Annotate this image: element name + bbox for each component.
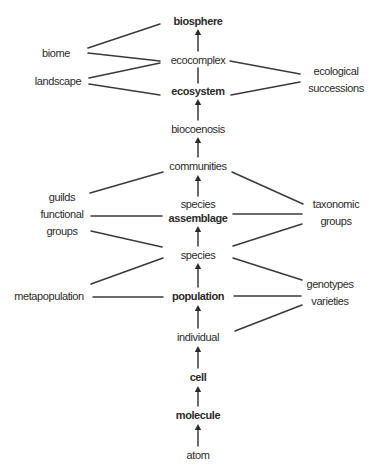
arrow-atom-to-molecule bbox=[195, 424, 201, 446]
link-landscape-ecocomplex bbox=[89, 63, 160, 78]
arrowhead-icon bbox=[195, 386, 201, 392]
arrow-communities-to-biocoenosis bbox=[195, 137, 201, 157]
node-biocoenosis: biocoenosis bbox=[171, 121, 225, 138]
label-line: varieties bbox=[306, 293, 353, 310]
arrow-species-to-assemblage bbox=[195, 226, 201, 246]
link-metapopulation-species bbox=[91, 258, 163, 284]
node-ecosystem: ecosystem bbox=[171, 83, 224, 100]
node-guilds-functional-groups: guilds functional groups bbox=[40, 189, 83, 240]
arrow-population-to-species bbox=[195, 263, 201, 287]
arrowhead-icon bbox=[195, 137, 201, 143]
arrowhead-icon bbox=[195, 226, 201, 232]
arrowhead-icon bbox=[195, 29, 201, 35]
node-species: species bbox=[181, 247, 216, 264]
arrowhead-icon bbox=[195, 305, 201, 311]
link-guilds-species bbox=[91, 231, 162, 247]
link-biome-biosphere bbox=[88, 24, 160, 48]
node-taxonomic-groups: taxonomic groups bbox=[313, 196, 360, 230]
link-successions-ecosystem bbox=[231, 82, 300, 95]
arrow-molecule-to-cell bbox=[195, 386, 201, 406]
node-species-assemblage: species assemblage bbox=[169, 197, 228, 225]
label-line: ecological bbox=[308, 63, 364, 80]
node-landscape: landscape bbox=[35, 73, 82, 90]
label-line: guilds bbox=[40, 189, 83, 206]
node-metapopulation: metapopulation bbox=[14, 288, 84, 305]
arrow-assemblage-to-communities bbox=[195, 175, 201, 196]
link-successions-ecocomplex bbox=[230, 61, 300, 74]
node-atom: atom bbox=[187, 447, 210, 464]
arrow-biocoenosis-to-ecosystem bbox=[195, 99, 201, 120]
label-line: assemblage bbox=[169, 211, 228, 225]
arrow-cell-to-individual bbox=[195, 346, 201, 368]
levels-of-organization-diagram: biosphere ecocomplex ecosystem biocoenos… bbox=[0, 0, 375, 473]
link-taxonomic-species bbox=[233, 224, 302, 246]
link-genotypes-individual bbox=[235, 305, 302, 331]
node-biosphere: biosphere bbox=[174, 13, 223, 30]
node-communities: communities bbox=[169, 158, 226, 175]
node-biome: biome bbox=[42, 45, 70, 62]
node-ecocomplex: ecocomplex bbox=[171, 52, 226, 69]
arrowhead-icon bbox=[195, 99, 201, 105]
arrowhead-icon bbox=[195, 346, 201, 352]
node-ecological-successions: ecological successions bbox=[308, 63, 364, 97]
node-molecule: molecule bbox=[176, 407, 221, 424]
label-line: species bbox=[169, 197, 228, 211]
arrowhead-icon bbox=[195, 175, 201, 181]
label-line: functional bbox=[40, 206, 83, 223]
label-line: successions bbox=[308, 80, 364, 97]
label-line: groups bbox=[40, 223, 83, 240]
link-landscape-ecosystem bbox=[89, 84, 160, 95]
label-line: taxonomic bbox=[313, 196, 360, 213]
node-genotypes-varieties: genotypes varieties bbox=[306, 276, 353, 310]
link-genotypes-species bbox=[233, 258, 302, 280]
arrow-individual-to-population bbox=[195, 305, 201, 328]
node-population: population bbox=[172, 288, 224, 305]
label-line: genotypes bbox=[306, 276, 353, 293]
link-guilds-communities bbox=[90, 172, 163, 193]
node-individual: individual bbox=[177, 329, 219, 346]
link-biome-ecocomplex bbox=[88, 53, 160, 61]
arrowhead-icon bbox=[195, 263, 201, 269]
label-line: groups bbox=[313, 213, 360, 230]
arrowhead-icon bbox=[195, 424, 201, 430]
link-taxonomic-communities bbox=[232, 172, 303, 204]
arrow-ecocomplex-to-biosphere bbox=[195, 29, 201, 51]
node-cell: cell bbox=[190, 369, 207, 386]
